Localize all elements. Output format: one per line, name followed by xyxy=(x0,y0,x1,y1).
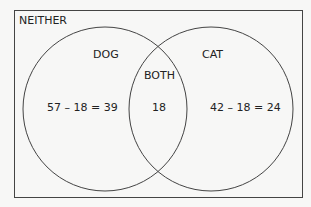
dog-only-expression: 57 – 18 = 39 xyxy=(47,102,118,113)
neither-label: NEITHER xyxy=(19,15,67,26)
dog-label: DOG xyxy=(93,49,119,60)
both-value: 18 xyxy=(152,102,166,113)
both-label: BOTH xyxy=(144,70,175,81)
cat-only-expression: 42 – 18 = 24 xyxy=(210,102,281,113)
cat-label: CAT xyxy=(202,49,223,60)
